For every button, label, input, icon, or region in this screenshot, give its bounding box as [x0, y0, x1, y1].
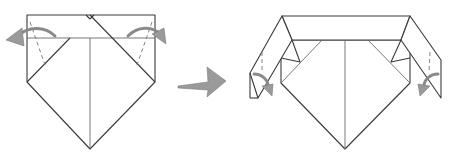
- body-outline: [281, 40, 410, 149]
- step-after-figure: [250, 16, 441, 149]
- paper-outline: [27, 15, 155, 149]
- next-step-arrow-icon: [178, 67, 226, 97]
- top-band: [282, 16, 410, 40]
- step-before-figure: [6, 15, 166, 149]
- origami-diagram: [0, 0, 452, 160]
